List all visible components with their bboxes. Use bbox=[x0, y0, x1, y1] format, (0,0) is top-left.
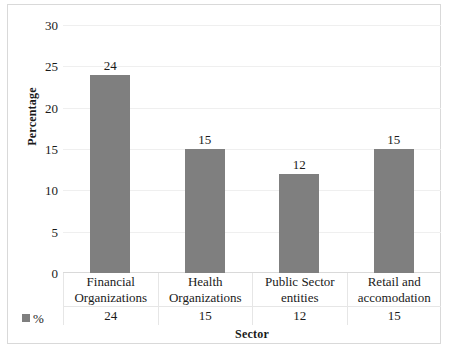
legend[interactable]: % bbox=[22, 309, 44, 327]
table-cell-value: 15 bbox=[158, 307, 253, 325]
y-tick-label: 10 bbox=[12, 184, 58, 197]
category-line: Financial bbox=[64, 274, 158, 290]
category-line: accomodation bbox=[348, 290, 442, 306]
table-cell-category: Retail and accomodation bbox=[347, 273, 442, 306]
bar-value-label: 12 bbox=[293, 158, 306, 171]
table-cell-category: Public Sector entities bbox=[252, 273, 347, 306]
legend-label: % bbox=[33, 312, 44, 325]
bar-slot: 15 bbox=[158, 25, 253, 273]
table-row-categories: Financial Organizations Health Organizat… bbox=[63, 273, 441, 307]
y-axis-title: Percentage bbox=[25, 57, 40, 177]
category-line: Health bbox=[159, 274, 253, 290]
bar-chart: 30 25 20 15 10 5 0 Percentage 24 bbox=[0, 0, 449, 358]
table-cell-value: 24 bbox=[63, 307, 158, 325]
table-cell-value: 15 bbox=[347, 307, 442, 325]
category-line: Organizations bbox=[64, 290, 158, 306]
category-line: Organizations bbox=[159, 290, 253, 306]
x-axis-title: Sector bbox=[63, 327, 441, 342]
table-cell-category: Financial Organizations bbox=[63, 273, 158, 306]
legend-swatch-icon bbox=[22, 314, 30, 322]
y-tick-label: 30 bbox=[12, 19, 58, 32]
bar[interactable] bbox=[374, 149, 414, 273]
bar-slot: 12 bbox=[252, 25, 347, 273]
table-row-values: 24 15 12 15 bbox=[63, 307, 441, 325]
chart-frame: 30 25 20 15 10 5 0 Percentage 24 bbox=[7, 4, 441, 344]
bar-value-label: 24 bbox=[104, 59, 117, 72]
bar-value-label: 15 bbox=[198, 133, 211, 146]
bar[interactable] bbox=[90, 75, 130, 273]
category-line: Public Sector bbox=[253, 274, 347, 290]
table-cell-category: Health Organizations bbox=[158, 273, 253, 306]
plot-area: 24 15 12 15 bbox=[63, 25, 441, 273]
bar-slot: 15 bbox=[347, 25, 442, 273]
bars-layer: 24 15 12 15 bbox=[63, 25, 441, 273]
category-line: Retail and bbox=[348, 274, 442, 290]
table-cell-value: 12 bbox=[252, 307, 347, 325]
y-tick-label: 0 bbox=[12, 267, 58, 280]
category-line: entities bbox=[253, 290, 347, 306]
y-tick-label: 5 bbox=[12, 225, 58, 238]
data-table: Financial Organizations Health Organizat… bbox=[63, 273, 441, 325]
bar-value-label: 15 bbox=[387, 133, 400, 146]
bar[interactable] bbox=[185, 149, 225, 273]
bar[interactable] bbox=[279, 174, 319, 273]
bar-slot: 24 bbox=[63, 25, 158, 273]
